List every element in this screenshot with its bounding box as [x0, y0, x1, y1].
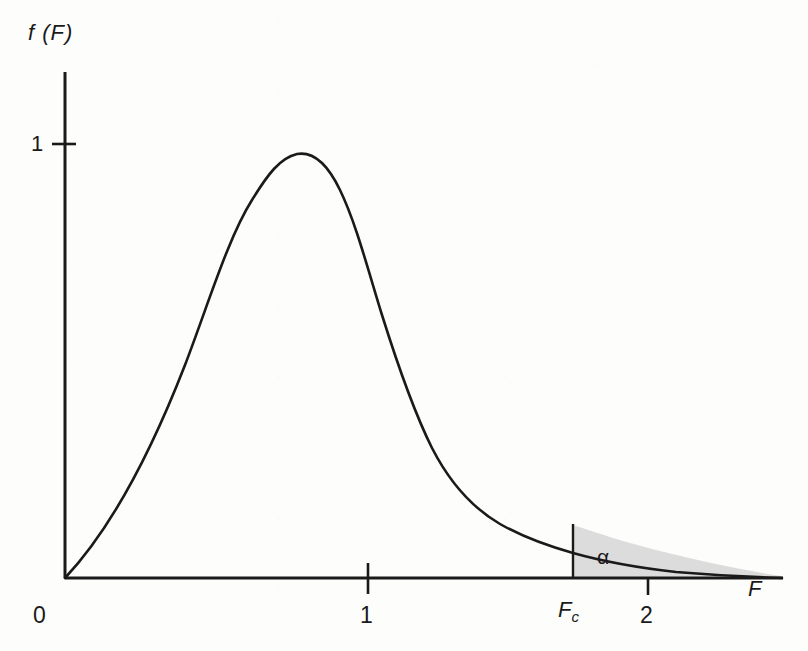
y-axis-label: f (F)	[28, 22, 73, 44]
f-distribution-figure: f (F) 1 0 1 Fc 2 F α	[0, 0, 808, 651]
x-axis-label: F	[748, 578, 761, 600]
y-tick-label-1: 1	[31, 133, 43, 155]
x-tick-label-2: 2	[640, 604, 653, 627]
critical-value-label-main: F	[558, 597, 571, 622]
alpha-region-label: α	[597, 546, 609, 567]
plot-canvas	[0, 0, 808, 651]
critical-value-label-sub: c	[571, 608, 579, 625]
density-curve	[65, 154, 782, 578]
origin-label: 0	[33, 604, 46, 627]
critical-value-label: Fc	[558, 599, 579, 624]
x-tick-label-1: 1	[360, 604, 373, 627]
